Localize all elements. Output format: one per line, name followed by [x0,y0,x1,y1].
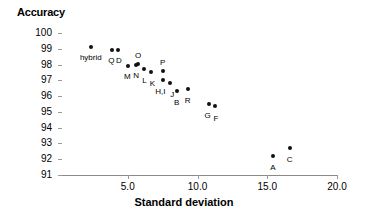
y-axis-tick-label: 97 [12,75,52,85]
x-axis-tick-label: 10.0 [178,181,218,192]
y-axis-tick-label: 95 [12,107,52,117]
y-axis-tick-mark [58,143,62,144]
y-axis-tick-mark [58,159,62,160]
y-axis-tick-mark [58,65,62,66]
data-point-label: C [275,155,305,164]
y-axis-tick-label: 93 [12,138,52,148]
data-point [161,69,165,73]
chart-figure: Accuracy 100999897969594939291 5.010.015… [0,0,368,218]
data-point [288,146,292,150]
x-axis-title: Standard deviation [0,196,368,208]
data-point-label: R [173,96,203,105]
y-axis-tick-mark [58,49,62,50]
data-point [213,104,217,108]
data-point-label: F [201,114,231,123]
y-axis-tick-mark [58,33,62,34]
y-axis-tick-label: 94 [12,123,52,133]
data-point [116,48,120,52]
x-axis-tick-mark [128,175,129,179]
x-axis-tick-label: 15.0 [247,181,287,192]
data-point [89,45,93,49]
data-point-label: P [148,58,178,67]
x-axis-tick-label: 5.0 [108,181,148,192]
y-axis-tick-label: 91 [12,170,52,180]
data-point-label: A [258,163,288,172]
y-axis-tick-label: 100 [12,28,52,38]
y-axis-tick-mark [58,128,62,129]
y-axis-tick-mark [58,175,62,176]
data-point [207,102,211,106]
y-axis-tick-label: 98 [12,60,52,70]
x-axis-tick-mark [267,175,268,179]
y-axis-tick-mark [58,96,62,97]
y-axis-tick-mark [58,80,62,81]
y-axis-tick-label: 99 [12,44,52,54]
y-axis-tick-mark [58,112,62,113]
x-axis-tick-mark [198,175,199,179]
x-axis-tick-label: 20.0 [317,181,357,192]
data-point [136,62,140,66]
y-axis-tick-label: 96 [12,91,52,101]
y-axis-tick-label: 92 [12,154,52,164]
y-axis-title: Accuracy [17,6,65,18]
x-axis-tick-mark [337,175,338,179]
